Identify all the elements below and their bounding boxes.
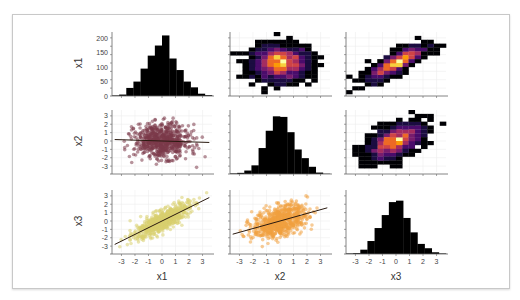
heat-cell: [286, 36, 293, 40]
heat-cell: [396, 137, 403, 141]
heat-cell: [384, 63, 391, 67]
heat-cell: [305, 48, 312, 52]
heat-cell: [377, 82, 384, 86]
heat-cell: [427, 141, 434, 145]
heat-cell: [359, 79, 366, 83]
heat-cell: [384, 79, 391, 83]
heat-cell: [396, 133, 403, 137]
heat-cell: [427, 118, 434, 122]
heat-cell: [377, 160, 384, 164]
heat-cell: [280, 44, 287, 48]
heat-cell: [415, 141, 422, 145]
y-tick-label: 0: [104, 138, 108, 145]
heat-cell: [299, 44, 306, 48]
x-tick-label: 3: [435, 258, 439, 265]
heat-cell: [280, 51, 287, 55]
heat-cell: [359, 153, 366, 157]
y-tick-label: 0: [104, 218, 108, 225]
heat-cell: [421, 114, 428, 118]
heat-cell: [377, 157, 384, 161]
heat-cell: [261, 79, 268, 83]
heat-cell: [365, 157, 372, 161]
heat-cell: [371, 164, 378, 168]
x-tick-label: 3: [319, 258, 323, 265]
hist-bar: [396, 201, 403, 254]
heat-cell: [365, 79, 372, 83]
y-tick-label: 0: [104, 93, 108, 100]
heat-cell: [427, 44, 434, 48]
x-tick-label: -2: [250, 258, 256, 265]
heat-cell: [371, 63, 378, 67]
heat-cell: [293, 75, 300, 79]
heat-cell: [293, 79, 300, 83]
heat-cell: [280, 55, 287, 59]
heat-cell: [249, 63, 256, 67]
heat-cell: [293, 48, 300, 52]
hist-bar: [382, 215, 389, 254]
heat-cell: [402, 51, 409, 55]
heat-cell: [415, 51, 422, 55]
hist-bar: [176, 70, 183, 96]
hist-bar: [155, 46, 162, 96]
heat-cell: [384, 75, 391, 79]
y-axis-label: x1: [73, 57, 84, 68]
heat-cell: [390, 126, 397, 130]
heat-cell: [352, 79, 359, 83]
heat-cell: [274, 67, 281, 71]
heat-cell: [299, 51, 306, 55]
heat-cell: [268, 71, 275, 75]
heat-cell: [365, 141, 372, 145]
heat-cell: [421, 40, 428, 44]
heat-cell: [268, 44, 275, 48]
hist-bar: [367, 241, 374, 254]
heat-cell: [377, 141, 384, 145]
heat-cell: [390, 129, 397, 133]
heat-cell: [440, 122, 447, 126]
heat-cell: [261, 90, 268, 94]
heat-cell: [255, 59, 262, 63]
heat-cell: [311, 51, 318, 55]
y-tick-label: 100: [96, 64, 108, 71]
heat-cell: [261, 55, 268, 59]
heat-cell: [415, 133, 422, 137]
heat-cell: [305, 55, 312, 59]
heat-cell: [396, 51, 403, 55]
heat-cell: [280, 75, 287, 79]
heat-cell: [365, 153, 372, 157]
heat-cell: [377, 149, 384, 153]
x-tick-label: 1: [174, 258, 178, 265]
heat-cell: [396, 118, 403, 122]
heat-cell: [415, 44, 422, 48]
heat-cell: [434, 48, 441, 52]
heat-cell: [396, 160, 403, 164]
heat-cell: [409, 129, 416, 133]
heat-cell: [409, 44, 416, 48]
heat-cell: [402, 63, 409, 67]
heat-cell: [371, 153, 378, 157]
heat-cell: [274, 32, 281, 36]
x-tick-label: 0: [160, 258, 164, 265]
heat-cell: [305, 71, 312, 75]
heat-cell: [255, 55, 262, 59]
y-tick-label: 50: [100, 78, 108, 85]
heat-cell: [427, 48, 434, 52]
heat-cell: [377, 126, 384, 130]
heat-cell: [396, 157, 403, 161]
heat-cell: [286, 79, 293, 83]
heat-cell: [390, 141, 397, 145]
heat-cell: [359, 160, 366, 164]
heat-cell: [402, 141, 409, 145]
heat-cell: [371, 141, 378, 145]
heat-cell: [396, 75, 403, 79]
heat-cell: [396, 126, 403, 130]
heat-cell: [255, 67, 262, 71]
heat-cell: [415, 55, 422, 59]
heat-cell: [365, 133, 372, 137]
heat-cell: [261, 86, 268, 90]
hist-bar: [266, 131, 273, 174]
heat-cell: [427, 114, 434, 118]
heat-cell: [293, 40, 300, 44]
heat-cell: [421, 129, 428, 133]
heat-cell: [286, 67, 293, 71]
heat-cell: [236, 51, 243, 55]
